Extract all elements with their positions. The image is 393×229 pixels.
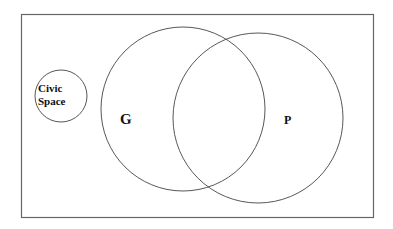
civic-label-line2: Space (38, 95, 66, 107)
p-label: P (284, 113, 291, 127)
civic-label-line1: Civic (38, 82, 63, 94)
g-label: G (120, 111, 132, 127)
p-circle (173, 33, 343, 203)
venn-diagram: Civic Space G P (0, 0, 393, 229)
frame-border (22, 15, 374, 218)
g-circle (101, 27, 265, 191)
